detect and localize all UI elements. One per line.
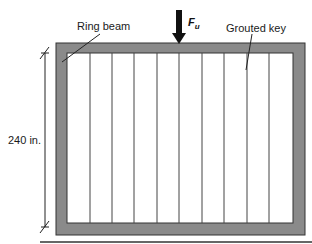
force-label: Fu [188, 16, 200, 31]
grouted-key-label: Grouted key [226, 22, 286, 34]
ring-beam-label: Ring beam [77, 20, 130, 32]
force-symbol: F [188, 16, 195, 28]
dimension-line [40, 47, 49, 233]
panel-area [67, 53, 293, 223]
dimension-label: 240 in. [8, 134, 41, 146]
force-arrow-icon [172, 10, 186, 44]
diaphragm-diagram [0, 0, 312, 244]
force-subscript: u [195, 22, 200, 31]
